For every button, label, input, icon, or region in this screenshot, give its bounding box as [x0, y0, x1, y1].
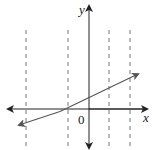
- dashed-vertical-lines: [26, 30, 130, 148]
- plotted-line: [60, 74, 138, 112]
- x-axis-label: x: [142, 110, 149, 125]
- plotted-line-left: [19, 112, 60, 126]
- y-axis-label: y: [77, 2, 85, 17]
- origin-label: 0: [78, 112, 85, 127]
- coordinate-plane: y x 0: [0, 0, 153, 150]
